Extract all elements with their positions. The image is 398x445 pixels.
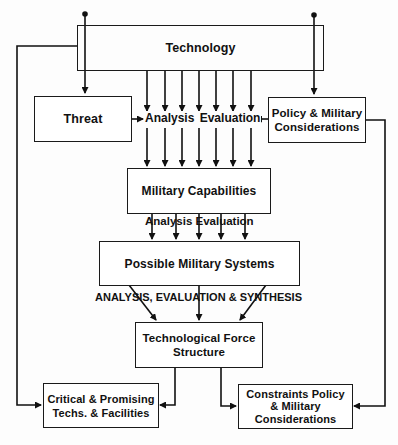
policy-label-line-2: Considerations bbox=[274, 120, 359, 134]
technology-label: Technology bbox=[165, 41, 235, 55]
critical-line-1: Critical & Promising bbox=[47, 392, 154, 406]
force-structure-line-1: Technological Force bbox=[143, 331, 256, 345]
constraints-line-3: Considerations bbox=[255, 413, 336, 426]
threat-box: Threat bbox=[34, 96, 132, 142]
critical-line-2: Techs. & Facilities bbox=[52, 406, 149, 420]
constraints-line-2: & Military bbox=[270, 400, 321, 413]
technological-force-structure-box: Technological Force Structure bbox=[135, 322, 263, 368]
military-capabilities-label: Military Capabilities bbox=[142, 184, 257, 198]
analysis-evaluation-synthesis-label: ANALYSIS, EVALUATION & SYNTHESIS bbox=[94, 291, 303, 303]
policy-label-line-1: Policy & Military bbox=[272, 106, 363, 120]
analysis-evaluation-label-1: Analysis Evaluation bbox=[144, 111, 261, 125]
constraints-line-1: Constraints Policy bbox=[246, 388, 344, 401]
analysis-evaluation-label-2: Analysis Evaluation bbox=[144, 215, 255, 227]
policy-military-considerations-box: Policy & Military Considerations bbox=[268, 97, 366, 143]
possible-military-systems-label: Possible Military Systems bbox=[125, 257, 275, 271]
critical-promising-techs-box: Critical & Promising Techs. & Facilities bbox=[43, 383, 159, 428]
technology-box: Technology bbox=[77, 25, 324, 71]
military-capabilities-box: Military Capabilities bbox=[127, 168, 271, 214]
diagram-canvas: Technology Threat Policy & Military Cons… bbox=[0, 0, 398, 445]
threat-label: Threat bbox=[64, 112, 103, 126]
possible-military-systems-box: Possible Military Systems bbox=[99, 241, 300, 286]
force-structure-line-2: Structure bbox=[173, 345, 225, 359]
constraints-policy-box: Constraints Policy & Military Considerat… bbox=[238, 384, 353, 429]
